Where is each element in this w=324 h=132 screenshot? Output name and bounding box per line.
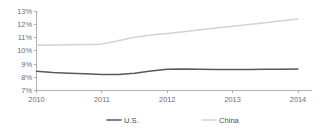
x-tick-label: 2013 (224, 95, 240, 104)
y-tick-label: 12% (17, 20, 32, 29)
legend-label-u-s: U.S. (124, 116, 139, 125)
chart-plot-area: 13%12%11%10%9%8%7% 20102011201220132014 … (0, 0, 324, 132)
x-tick-label: 2011 (94, 95, 110, 104)
y-tick-label: 11% (18, 33, 33, 42)
x-tick-label: 2014 (290, 95, 306, 104)
y-tick-labels: 13%12%11%10%9%8%7% (17, 7, 32, 96)
y-tick-label: 9% (21, 60, 32, 69)
y-tick-label: 10% (17, 46, 32, 55)
legend-label-china: China (219, 116, 240, 125)
line-chart: 13%12%11%10%9%8%7% 20102011201220132014 … (0, 0, 324, 132)
chart-legend: U.S.China (107, 116, 240, 125)
series-line-china (37, 19, 299, 45)
x-tick-labels: 20102011201220132014 (28, 95, 306, 104)
data-series-group (37, 19, 299, 75)
y-tick-label: 8% (21, 73, 32, 82)
series-line-u-s (37, 69, 299, 75)
x-tick-label: 2010 (28, 95, 44, 104)
y-tick-label: 13% (17, 7, 32, 16)
x-tick-label: 2012 (159, 95, 175, 104)
